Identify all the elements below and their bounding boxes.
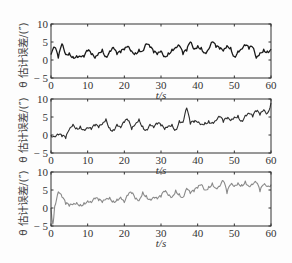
data-line-middle — [51, 103, 271, 139]
x-tick-label: 60 — [266, 154, 278, 166]
y-tick-label: 5 — [43, 36, 49, 48]
y-tick-label: 0 — [43, 54, 49, 66]
x-tick-label: 10 — [82, 227, 94, 239]
y-tick-label: 5 — [43, 111, 49, 123]
x-tick-label: 40 — [192, 79, 204, 91]
x-tick-label: 50 — [229, 227, 241, 239]
x-tick-label: 40 — [192, 154, 204, 166]
x-axis-title: t/s — [156, 237, 166, 249]
y-tick-label: 10 — [37, 18, 49, 30]
y-tick-label: 0 — [43, 129, 49, 141]
x-tick-label: 20 — [119, 227, 131, 239]
x-tick-label: 50 — [229, 79, 241, 91]
plot-frame — [51, 172, 271, 226]
y-axis-title: θ 估计误差/(″) — [17, 97, 29, 162]
y-tick-label: − 5 — [34, 220, 49, 232]
y-tick-label: − 5 — [34, 147, 49, 159]
x-tick-label: 10 — [82, 79, 94, 91]
y-tick-label: 5 — [43, 184, 49, 196]
x-tick-label: 60 — [266, 79, 278, 91]
x-tick-label: 0 — [48, 227, 54, 239]
y-tick-label: 0 — [43, 202, 49, 214]
x-tick-label: 50 — [229, 154, 241, 166]
y-axis-title: θ 估计误差/(″) — [17, 170, 29, 235]
x-tick-label: 60 — [266, 227, 278, 239]
y-tick-label: 10 — [37, 93, 49, 105]
x-tick-label: 10 — [82, 154, 94, 166]
x-tick-label: 20 — [119, 79, 131, 91]
panel-middle: 01020304050601050− 5t/sθ 估计误差/(″) — [17, 93, 277, 176]
y-tick-label: − 5 — [34, 72, 49, 84]
panel-bottom: 01020304050601050− 5t/sθ 估计误差/(″) — [17, 166, 277, 249]
y-axis-title: θ 估计误差/(″) — [17, 22, 29, 87]
x-tick-label: 0 — [48, 154, 54, 166]
x-tick-label: 0 — [48, 79, 54, 91]
x-tick-label: 20 — [119, 154, 131, 166]
data-line-top — [51, 42, 271, 58]
data-line-bottom — [51, 181, 271, 225]
y-tick-label: 10 — [37, 166, 49, 178]
figure: 01020304050601050− 5t/sθ 估计误差/(″)0102030… — [0, 0, 292, 263]
panel-top: 01020304050601050− 5t/sθ 估计误差/(″) — [17, 18, 277, 101]
x-tick-label: 40 — [192, 227, 204, 239]
